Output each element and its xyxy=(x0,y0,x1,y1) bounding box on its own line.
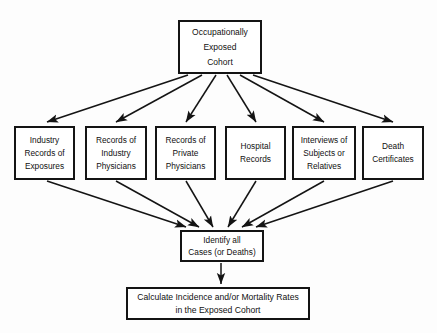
arrow-interviews-to-identify xyxy=(242,181,324,227)
node-line: Private xyxy=(173,147,199,160)
arrow-cohort-to-private-physicians xyxy=(186,75,216,122)
node-line: Records of xyxy=(96,134,136,147)
node-line: Identify all xyxy=(203,234,240,247)
arrow-cohort-to-death-certificates xyxy=(253,75,393,122)
node-line: Death xyxy=(382,140,404,153)
arrow-cohort-to-hospital-records xyxy=(227,75,256,122)
node-line: Records of xyxy=(24,147,64,160)
node-line: Physicians xyxy=(166,160,206,173)
node-industry-records-of-exposures[interactable]: Industry Records of Exposures xyxy=(14,126,75,180)
node-interviews-of-subjects-or-relatives[interactable]: Interviews of Subjects or Relatives xyxy=(292,126,356,180)
arrow-industry-records-to-identify xyxy=(47,181,186,227)
node-line: Industry xyxy=(101,147,131,160)
node-hospital-records[interactable]: Hospital Records xyxy=(225,126,286,180)
node-line: Hospital xyxy=(241,140,271,153)
node-line: Industry xyxy=(30,134,60,147)
node-line: Certificates xyxy=(372,153,414,166)
node-records-of-private-physicians[interactable]: Records of Private Physicians xyxy=(155,126,216,180)
node-records-of-industry-physicians[interactable]: Records of Industry Physicians xyxy=(85,126,147,180)
node-identify-all-cases-or-deaths[interactable]: Identify all Cases (or Deaths) xyxy=(180,230,264,262)
node-line: Occupationally xyxy=(192,25,248,40)
node-line: Exposures xyxy=(25,160,64,173)
node-line: Relatives xyxy=(307,160,341,173)
node-line: Physicians xyxy=(96,160,136,173)
node-line: Cohort xyxy=(207,55,233,70)
node-occupationally-exposed-cohort[interactable]: Occupationally Exposed Cohort xyxy=(178,20,262,74)
node-line: Cases (or Deaths) xyxy=(188,246,255,259)
node-line: Records of xyxy=(165,134,205,147)
flowchart-canvas: Occupationally Exposed Cohort Industry R… xyxy=(0,0,437,333)
arrow-industry-physicians-to-identify xyxy=(116,181,199,227)
arrow-hospital-records-to-identify xyxy=(228,181,256,227)
arrow-cohort-to-industry-physicians xyxy=(116,75,202,122)
node-line: Calculate Incidence and/or Mortality Rat… xyxy=(137,291,298,304)
node-death-certificates[interactable]: Death Certificates xyxy=(362,126,424,180)
node-line: Records xyxy=(240,153,271,166)
node-line: Interviews of xyxy=(301,134,348,147)
node-line: Subjects or xyxy=(303,147,345,160)
node-calculate-incidence-mortality-rates[interactable]: Calculate Incidence and/or Mortality Rat… xyxy=(126,287,310,320)
node-line: Exposed xyxy=(203,40,236,55)
arrow-cohort-to-interviews xyxy=(240,75,324,122)
arrow-death-certificates-to-identify xyxy=(256,181,393,227)
node-line: in the Exposed Cohort xyxy=(175,304,260,317)
arrow-cohort-to-industry-records xyxy=(47,75,188,122)
arrow-private-physicians-to-identify xyxy=(186,181,213,227)
